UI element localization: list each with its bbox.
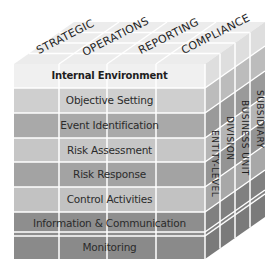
side-label-division: DIVISION — [225, 116, 235, 161]
erm-cube-diagram: STRATEGIC OPERATIONS REPORTING COMPLIANC… — [0, 0, 280, 273]
side-label-entity-level: ENTITY-LEVEL — [210, 130, 220, 197]
row-label-control-activities: Control Activities — [14, 187, 205, 211]
row-label-objective-setting: Objective Setting — [14, 88, 205, 112]
row-label-event-identification: Event Identification — [14, 113, 205, 137]
row-label-information-communication: Information & Communication — [14, 211, 205, 235]
row-label-internal-environment: Internal Environment — [14, 64, 205, 88]
row-label-risk-assessment: Risk Assessment — [14, 138, 205, 162]
row-label-risk-response: Risk Response — [14, 162, 205, 186]
side-label-business-unit: BUSINESS UNIT — [240, 100, 250, 176]
row-label-monitoring: Monitoring — [14, 235, 205, 259]
side-label-subsidiary: SUBSIDIARY — [255, 90, 265, 149]
